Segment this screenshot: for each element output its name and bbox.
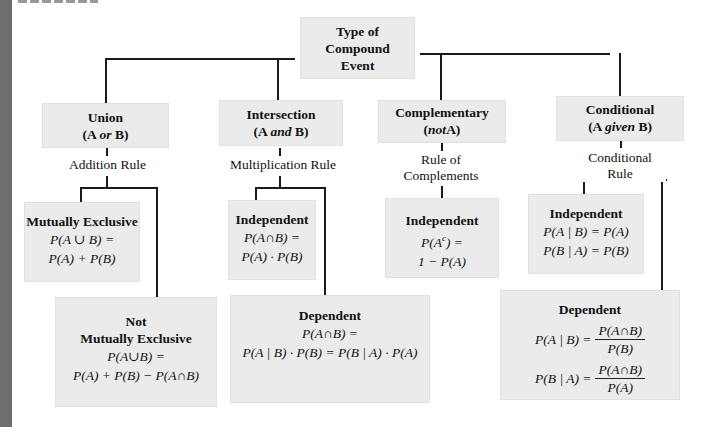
category-complementary: Complementary (notA) [378, 100, 506, 143]
fraction: P(A∩B) P(A) [595, 361, 644, 396]
category-title: Complementary [378, 104, 506, 121]
formula-part: P(A [421, 235, 442, 250]
root-line-2: Compound [300, 40, 415, 57]
subtitle-suffix: B) [292, 124, 309, 139]
leaf-intersection-dependent: Dependent P(A∩B) = P(A | B) · P(B) = P(B… [230, 295, 430, 403]
formula-line: P(Ac) = [385, 229, 499, 252]
denominator: P(A) [607, 379, 632, 396]
page-edge-bar [0, 0, 12, 427]
rule-label-line-1: Rule of [395, 152, 487, 168]
numerator: P(A∩B) [595, 322, 644, 340]
root-node: Type of Compound Event [300, 17, 415, 79]
rule-addition: Addition Rule [60, 157, 155, 173]
leaf-title: Independent [528, 205, 644, 222]
rule-label: Addition Rule [69, 157, 146, 172]
leaf-title-line-2: Mutually Exclusive [55, 330, 217, 347]
category-intersection: Intersection (A and B) [219, 100, 343, 146]
subtitle-prefix: (A [254, 124, 271, 139]
equation-a-given-b: P(A | B) = P(A∩B) P(B) [500, 322, 680, 357]
subtitle-suffix: B) [112, 127, 129, 142]
leaf-title: Dependent [500, 301, 680, 318]
subtitle-keyword: or [99, 127, 111, 142]
leaf-conditional-dependent: Dependent P(A | B) = P(A∩B) P(B) P(B | A… [500, 290, 680, 400]
leaf-complement-independent: Independent P(Ac) = 1 − P(A) [385, 198, 499, 278]
formula-line: P(A∪B) = [55, 347, 217, 366]
subtitle-prefix: (A [83, 127, 100, 142]
subtitle-keyword: not [428, 122, 446, 137]
rule-label-line-2: Complements [395, 168, 487, 184]
formula-line: P(A | B) · P(B) = P(B | A) · P(A) [230, 343, 430, 362]
formula-line: P(A) + P(B) [24, 249, 140, 268]
formula-line: P(A | B) = P(A) [528, 222, 644, 241]
subtitle-keyword: given [605, 119, 635, 134]
rule-conditional: Conditional Rule [574, 150, 666, 182]
leaf-intersection-independent: Independent P(A∩B) = P(A) · P(B) [228, 200, 316, 280]
rule-complements: Rule of Complements [395, 152, 487, 184]
subtitle-suffix: B) [635, 119, 652, 134]
rule-label: Multiplication Rule [230, 157, 336, 172]
subtitle-prefix: (A [588, 119, 605, 134]
root-line-1: Type of [300, 23, 415, 40]
formula-line: P(A) · P(B) [228, 247, 316, 266]
numerator: P(A∩B) [595, 361, 644, 379]
subtitle-suffix: A) [446, 122, 460, 137]
denominator: P(B) [607, 340, 632, 357]
formula-line: P(A∩B) = [228, 228, 316, 247]
root-line-3: Event [300, 57, 415, 74]
rule-multiplication: Multiplication Rule [228, 157, 338, 173]
leaf-conditional-independent: Independent P(A | B) = P(A) P(B | A) = P… [528, 194, 644, 274]
equation-lhs: P(A | B) = [535, 332, 591, 348]
formula-part: ) = [446, 235, 463, 250]
category-title: Union [42, 109, 169, 126]
leaf-not-mutually-exclusive: Not Mutually Exclusive P(A∪B) = P(A) + P… [55, 297, 217, 407]
leaf-title: Independent [385, 212, 499, 229]
clipped-heading [18, 0, 98, 3]
formula-line: P(A) + P(B) − P(A∩B) [55, 366, 217, 385]
leaf-title: Dependent [230, 307, 430, 324]
formula-line: P(A∩B) = [230, 324, 430, 343]
formula-line: P(B | A) = P(B) [528, 241, 644, 260]
category-union: Union (A or B) [42, 103, 169, 148]
category-title: Conditional [556, 101, 684, 118]
leaf-title: Mutually Exclusive [24, 213, 140, 230]
leaf-title-line-1: Not [55, 313, 217, 330]
category-conditional: Conditional (A given B) [556, 96, 684, 141]
rule-label: Conditional Rule [588, 150, 652, 181]
formula-line: 1 − P(A) [385, 252, 499, 271]
equation-b-given-a: P(B | A) = P(A∩B) P(A) [500, 361, 680, 396]
fraction: P(A∩B) P(B) [595, 322, 644, 357]
category-title: Intersection [219, 106, 343, 123]
subtitle-keyword: and [270, 124, 291, 139]
leaf-mutually-exclusive: Mutually Exclusive P(A ∪ B) = P(A) + P(B… [24, 202, 140, 282]
equation-lhs: P(B | A) = [535, 371, 591, 387]
leaf-title: Independent [228, 211, 316, 228]
formula-line: P(A ∪ B) = [24, 230, 140, 249]
